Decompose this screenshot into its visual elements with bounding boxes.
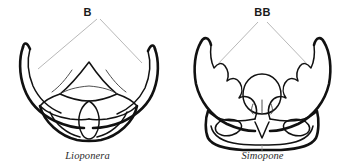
left-mandible-apex xyxy=(201,38,211,45)
left-mandible-toothed-margin xyxy=(211,45,257,119)
median-posterior-notch xyxy=(255,122,269,138)
figure-plate: B Lioponera xyxy=(0,0,350,168)
left-mandible-outer-edge xyxy=(195,42,255,131)
leader-lines-bb xyxy=(216,22,309,66)
leader-lines-b xyxy=(38,19,142,69)
clypeus-median-wedge xyxy=(60,62,117,101)
figure-panel-simopone: BB Simopone xyxy=(175,0,350,168)
callout-label-b: B xyxy=(0,7,175,18)
head-capsule-outline xyxy=(206,111,319,150)
right-mandible-apex xyxy=(148,45,155,51)
lioponera-line-drawing xyxy=(0,0,175,168)
simopone-line-drawing xyxy=(175,0,350,168)
callout-label-bb: BB xyxy=(175,7,350,18)
right-mandible-apex xyxy=(314,38,324,45)
figure-panel-lioponera: B Lioponera xyxy=(0,0,175,168)
genus-caption-simopone: Simopone xyxy=(175,150,350,161)
left-mandible-apex xyxy=(23,43,30,49)
genus-caption-lioponera: Lioponera xyxy=(0,150,175,161)
